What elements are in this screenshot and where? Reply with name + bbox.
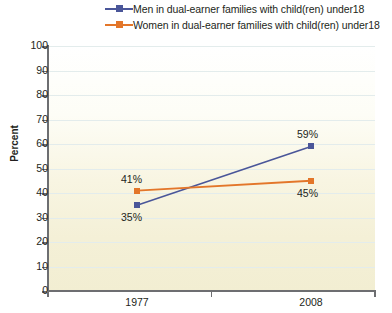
- data-point-label: 35%: [121, 211, 142, 223]
- chart-container: Men in dual-earner families with child(r…: [0, 0, 392, 313]
- data-point-label: 45%: [297, 187, 318, 199]
- series-lines: [0, 0, 392, 313]
- line-women: [137, 181, 311, 191]
- data-point-label: 41%: [121, 173, 142, 185]
- data-point-marker: [308, 178, 314, 184]
- data-point-marker: [134, 188, 140, 194]
- data-point-label: 59%: [297, 128, 318, 140]
- data-point-marker: [308, 143, 314, 149]
- data-point-marker: [134, 202, 140, 208]
- line-men: [137, 146, 311, 205]
